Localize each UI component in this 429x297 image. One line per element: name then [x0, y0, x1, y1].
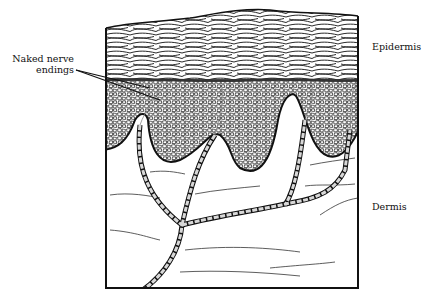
skin-diagram: [0, 0, 429, 297]
label-line-1: Naked nerve: [6, 53, 74, 64]
dermis-fibers: [110, 158, 358, 276]
skin-block: [100, 0, 365, 292]
naked-nerve-endings-label: Naked nerve endings: [6, 53, 74, 75]
epidermis-label: Epidermis: [372, 41, 421, 52]
label-line-2: endings: [6, 64, 74, 75]
dermis-label: Dermis: [372, 201, 407, 212]
